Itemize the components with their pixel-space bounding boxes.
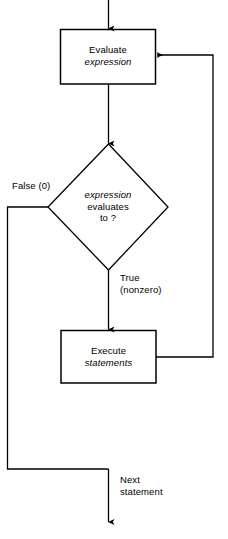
decision-diamond-label: expression evaluates to ? <box>60 189 156 224</box>
decision-line3: to ? <box>60 212 156 224</box>
evaluate-box-label: Evaluate expression <box>60 44 156 67</box>
decision-line2: evaluates <box>60 201 156 213</box>
true-branch-line2: (nonzero) <box>120 284 162 296</box>
false-branch-text: False (0) <box>12 180 50 192</box>
flowchart-canvas: Evaluate expression expression evaluates… <box>0 0 228 539</box>
next-statement-label: Next statement <box>120 474 163 497</box>
evaluate-box-line2: expression <box>60 56 156 68</box>
execute-box-line2: statements <box>61 357 156 369</box>
false-branch-label: False (0) <box>12 180 50 192</box>
flowchart-graphics <box>0 0 228 539</box>
true-branch-label: True (nonzero) <box>120 272 162 295</box>
false-branch-path <box>8 207 109 469</box>
loop-back-path <box>156 55 213 357</box>
next-statement-line1: Next <box>120 474 163 486</box>
true-branch-line1: True <box>120 272 162 284</box>
evaluate-box-line1: Evaluate <box>60 44 156 56</box>
next-statement-line2: statement <box>120 486 163 498</box>
execute-box-label: Execute statements <box>61 345 156 368</box>
execute-box-line1: Execute <box>61 345 156 357</box>
decision-line1: expression <box>60 189 156 201</box>
